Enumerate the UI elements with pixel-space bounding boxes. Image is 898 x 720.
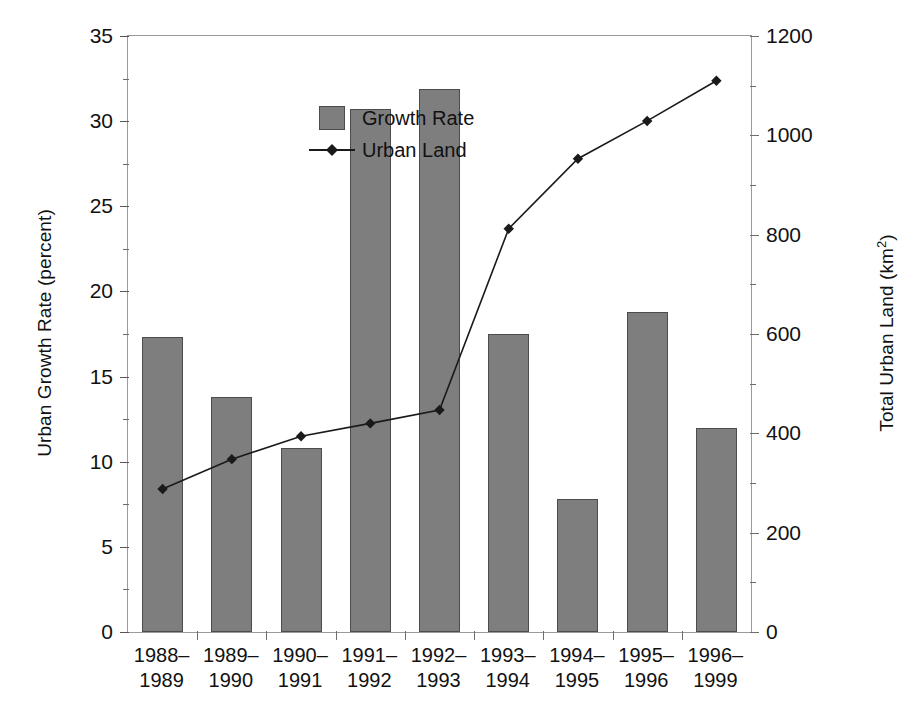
legend-line-marker-icon (306, 140, 358, 160)
plot-area: Growth Rate Urban Land (127, 35, 752, 633)
y-axis-right-title-main: Total Urban Land (km (876, 248, 897, 432)
y-axis-right-tick-label: 600 (766, 323, 836, 344)
y-axis-right-tick-label: 0 (766, 621, 836, 642)
x-axis-tick (197, 631, 198, 640)
y-axis-right-tick-label: 1000 (766, 124, 836, 145)
legend-label-urban-land: Urban Land (358, 139, 467, 162)
y-axis-left-tick-label: 35 (53, 25, 113, 46)
x-axis-tick (543, 631, 544, 640)
data-point-marker (434, 405, 444, 415)
y-axis-right-tick (750, 235, 759, 236)
y-axis-left-tick-label: 10 (53, 450, 113, 471)
y-axis-left-tick-label: 15 (53, 365, 113, 386)
legend-item-growth-rate: Growth Rate (306, 102, 536, 134)
y-axis-right-tick-label: 400 (766, 422, 836, 443)
x-axis-tick (405, 631, 406, 640)
x-axis-tick-labels: 1988–19891989–19901990–19911991–19921992… (127, 643, 750, 713)
y-axis-right-title-superscript: 2 (874, 241, 889, 248)
data-point-marker (296, 431, 306, 441)
y-axis-right-tick (750, 533, 759, 534)
y-axis-left-tick-label: 0 (53, 621, 113, 642)
y-axis-right-tick (750, 135, 759, 136)
chart-legend: Growth Rate Urban Land (306, 102, 536, 166)
x-axis-tick (474, 631, 475, 640)
y-axis-left-tick (120, 632, 129, 633)
x-axis-tick (613, 631, 614, 640)
x-axis-tick (336, 631, 337, 640)
y-axis-right-title: Total Urban Land (km2) (876, 35, 898, 631)
legend-label-growth-rate: Growth Rate (358, 107, 474, 130)
y-axis-left-tick-label: 25 (53, 195, 113, 216)
data-point-marker (365, 418, 375, 428)
diamond-marker-icon (307, 140, 357, 160)
y-axis-left-tick-label: 20 (53, 280, 113, 301)
data-point-marker (711, 76, 721, 86)
x-axis-tick-label-line: 1999 (672, 668, 758, 693)
legend-item-urban-land: Urban Land (306, 134, 536, 166)
y-axis-right-tick-label: 800 (766, 223, 836, 244)
x-axis-tick-label: 1996–1999 (672, 643, 758, 693)
legend-swatch-icon (306, 106, 358, 130)
y-axis-left-tick-label: 5 (53, 535, 113, 556)
y-axis-right-title-tail: ) (876, 234, 897, 240)
y-axis-right-tick (750, 433, 759, 434)
data-point-marker (642, 116, 652, 126)
x-axis-tick (682, 631, 683, 640)
y-axis-right-tick (750, 632, 759, 633)
y-axis-right-tick (750, 334, 759, 335)
x-axis-tick-label-line: 1996– (672, 643, 758, 668)
y-axis-right-tick-label: 200 (766, 521, 836, 542)
y-axis-left-tick-label: 30 (53, 110, 113, 131)
data-point-marker (157, 484, 167, 494)
y-axis-right-tick-label: 1200 (766, 25, 836, 46)
x-axis-tick (266, 631, 267, 640)
y-axis-right-tick (750, 36, 759, 37)
data-point-marker (227, 454, 237, 464)
